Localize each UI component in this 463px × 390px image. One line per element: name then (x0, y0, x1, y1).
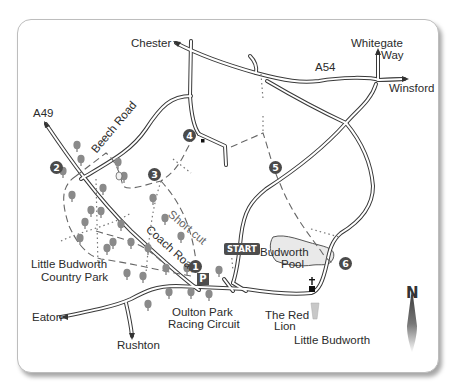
label-budworth: Budworth (260, 246, 309, 258)
label-whitegate: Whitegate (351, 37, 403, 49)
label-country-park-1: Little Budworth (31, 258, 107, 270)
label-red-lion-2: Lion (274, 320, 296, 332)
north-label: N (406, 284, 419, 302)
building-marker (201, 139, 205, 143)
pub-glass-icon (311, 303, 319, 319)
waypoint-5[interactable]: 5 (269, 161, 282, 174)
road-exit-arrows (44, 41, 409, 340)
label-chester: Chester (131, 37, 171, 49)
church-cross-icon (309, 277, 315, 292)
label-a54: A54 (315, 61, 335, 73)
label-way: Way (381, 49, 404, 61)
waypoint-2[interactable]: 2 (50, 161, 63, 174)
start-badge[interactable]: START (224, 243, 260, 255)
label-country-park-2: Country Park (41, 271, 108, 283)
label-rushton: Rushton (117, 339, 160, 351)
label-racing-circuit: Racing Circuit (168, 318, 240, 330)
label-little-budworth: Little Budworth (294, 334, 370, 346)
label-pool: Pool (281, 258, 304, 270)
waypoint-6[interactable]: 6 (339, 257, 352, 270)
label-a49: A49 (33, 107, 53, 119)
small-pond (116, 172, 122, 180)
waypoint-1[interactable]: 1 (189, 260, 202, 273)
waypoint-3[interactable]: 3 (148, 168, 161, 181)
map-frame: Chester Whitegate Way A54 Winsford A49 B… (17, 19, 439, 373)
waypoint-4[interactable]: 4 (183, 129, 196, 142)
label-eaton: Eaton (32, 311, 62, 323)
label-winsford: Winsford (389, 82, 434, 94)
label-oulton-park: Oulton Park (172, 306, 233, 318)
parking-icon: P (197, 273, 209, 285)
